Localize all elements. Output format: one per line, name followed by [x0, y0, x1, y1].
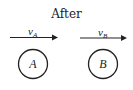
- velocity-label-a: vA: [28, 26, 37, 41]
- velocity-subscript: B: [103, 32, 107, 40]
- velocity-label-b: vB: [98, 27, 107, 42]
- ball-a-label: A: [18, 58, 48, 70]
- velocity-subscript: A: [33, 31, 37, 39]
- diagram-canvas: [0, 0, 133, 90]
- ball-b-label: B: [88, 58, 118, 70]
